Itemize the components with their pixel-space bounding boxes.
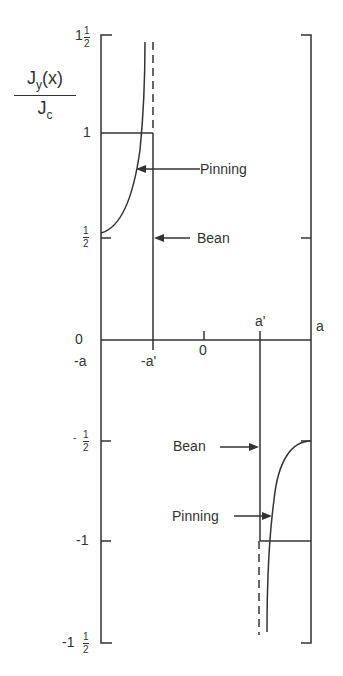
y-axis-label: Jy(x) Jc bbox=[14, 68, 76, 121]
xlabel-neg-a-prime: -a' bbox=[141, 353, 156, 369]
right-bracket bbox=[301, 35, 311, 643]
ytick-1: 1 bbox=[83, 124, 91, 140]
ytick-neg-0-5: 12 bbox=[83, 430, 89, 453]
xlabel-zero: 0 bbox=[199, 342, 207, 358]
pinning-curve-left bbox=[101, 42, 145, 233]
annotation-bean-top: Bean bbox=[197, 230, 230, 246]
ytick-1-5-frac: 12 bbox=[84, 26, 90, 49]
annotation-pinning-top: Pinning bbox=[200, 161, 247, 177]
ytick-neg-0-5-sign: - bbox=[73, 432, 76, 443]
xlabel-a-prime: a' bbox=[255, 313, 265, 329]
ytick-1-5-whole: 1 bbox=[75, 27, 83, 43]
ytick-0-5: 12 bbox=[83, 226, 89, 249]
ytick-neg-1: -1 bbox=[76, 532, 88, 548]
ytick-0: 0 bbox=[75, 331, 83, 347]
ytick-neg-1-5-frac: 12 bbox=[83, 632, 89, 655]
ytick-neg-1-5-whole: -1 bbox=[62, 634, 74, 650]
annotation-bean-bottom: Bean bbox=[173, 438, 206, 454]
xlabel-a: a bbox=[316, 318, 324, 334]
pinning-curve-right bbox=[267, 441, 311, 632]
annotation-pinning-bottom: Pinning bbox=[172, 508, 219, 524]
xlabel-neg-a: -a bbox=[74, 353, 86, 369]
left-axis bbox=[101, 35, 112, 643]
